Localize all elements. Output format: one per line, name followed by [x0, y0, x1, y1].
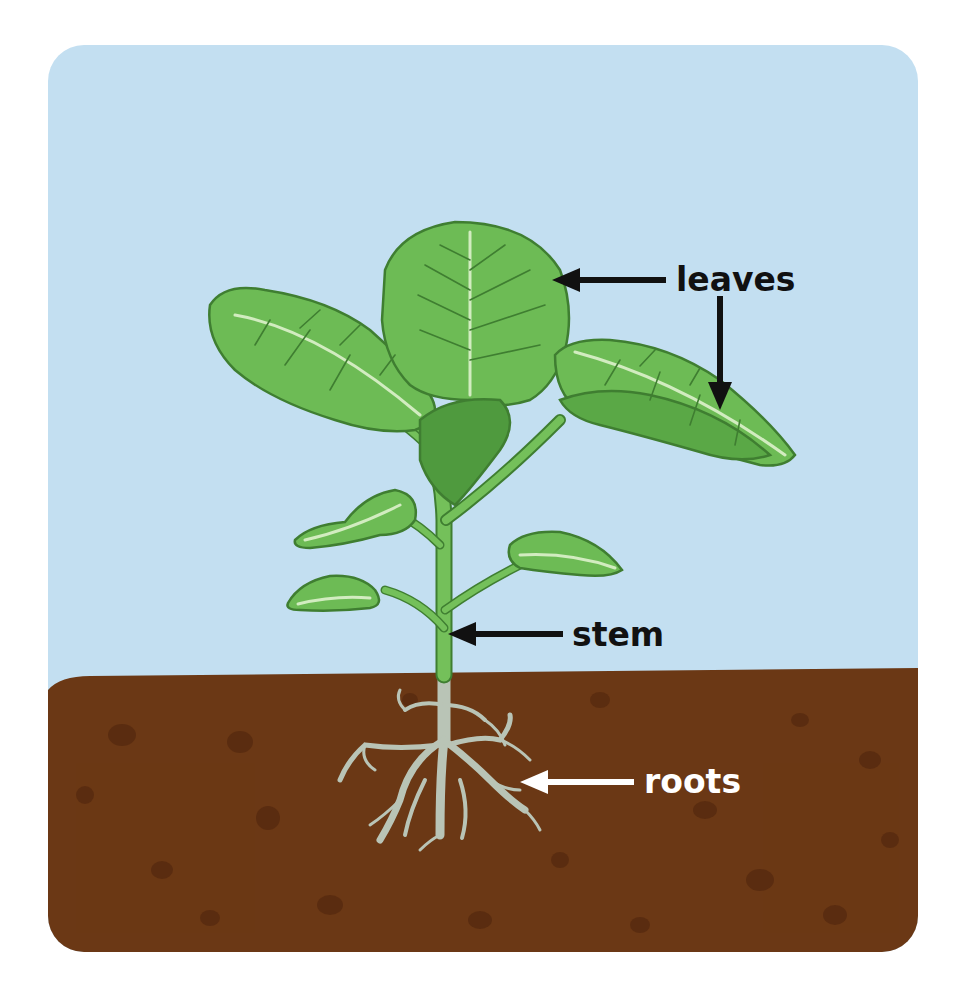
- label-leaves: leaves: [676, 260, 796, 299]
- plant-parts-diagram: leaves stem roots: [0, 0, 964, 1005]
- leaf-center-top: [382, 222, 569, 405]
- soil: [48, 668, 918, 952]
- label-stem: stem: [572, 615, 664, 654]
- label-roots: roots: [644, 762, 741, 801]
